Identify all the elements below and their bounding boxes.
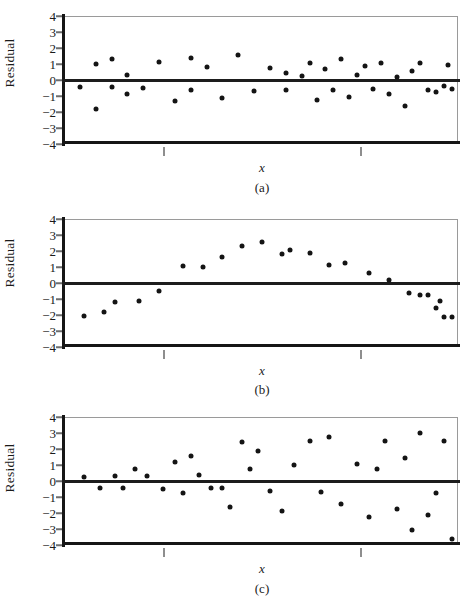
data-point <box>267 66 272 71</box>
x-tick-mark <box>163 548 165 557</box>
data-point <box>418 430 423 435</box>
data-point <box>220 95 225 100</box>
data-point <box>283 70 288 75</box>
data-point <box>418 60 423 65</box>
panel-c-y-axis-label: Residual <box>2 413 18 523</box>
panel-b-caption: (b) <box>232 382 292 398</box>
y-tick-label: −1 <box>42 90 56 103</box>
data-point <box>362 63 367 68</box>
frame-top-border <box>62 417 458 418</box>
y-tick-label: −4 <box>42 539 56 552</box>
data-point <box>291 462 296 467</box>
data-point <box>347 94 352 99</box>
data-point <box>327 262 332 267</box>
panel-b-y-axis-label: Residual <box>2 208 18 318</box>
data-point <box>188 88 193 93</box>
data-point <box>200 265 205 270</box>
data-point <box>386 278 391 283</box>
data-point <box>256 448 261 453</box>
data-point <box>81 474 86 479</box>
data-point <box>228 504 233 509</box>
data-point <box>172 98 177 103</box>
data-point <box>125 72 130 77</box>
panel-a-caption: (a) <box>232 180 292 196</box>
data-point <box>93 107 98 112</box>
y-tick-label: −3 <box>42 122 56 135</box>
x-tick-mark <box>360 548 362 557</box>
data-point <box>113 299 118 304</box>
data-point <box>160 487 165 492</box>
data-point <box>252 88 257 93</box>
data-point <box>446 62 451 67</box>
data-point <box>402 455 407 460</box>
frame-top-border <box>62 16 458 17</box>
panel-b: Residual 4 3 2 1 0 −1 −2 −3 −4 <box>0 200 466 400</box>
data-point <box>137 298 142 303</box>
data-point <box>307 439 312 444</box>
panel-b-plot-frame <box>62 219 458 347</box>
data-point <box>208 486 213 491</box>
data-point <box>157 288 162 293</box>
data-point <box>442 315 447 320</box>
panel-a-y-axis-label: Residual <box>2 8 18 118</box>
data-point <box>109 85 114 90</box>
data-point <box>259 239 264 244</box>
zero-reference-line <box>62 480 460 483</box>
data-point <box>450 536 455 541</box>
data-point <box>188 454 193 459</box>
panel-c-y-tick-labels: 4 3 2 1 0 −1 −2 −3 −4 <box>30 403 56 607</box>
data-point <box>434 89 439 94</box>
data-point <box>426 512 431 517</box>
data-point <box>410 69 415 74</box>
data-point <box>366 271 371 276</box>
data-point <box>141 86 146 91</box>
panel-b-x-axis-label: x <box>242 363 282 379</box>
panel-c-x-axis-label: x <box>242 561 282 577</box>
data-point <box>299 74 304 79</box>
data-point <box>386 91 391 96</box>
data-point <box>434 305 439 310</box>
data-point <box>374 467 379 472</box>
data-point <box>97 486 102 491</box>
x-tick-mark <box>360 147 362 156</box>
data-point <box>196 473 201 478</box>
data-point <box>101 310 106 315</box>
x-axis-spine <box>62 141 460 144</box>
data-point <box>339 56 344 61</box>
data-point <box>81 313 86 318</box>
data-point <box>450 315 455 320</box>
data-point <box>450 86 455 91</box>
data-point <box>442 83 447 88</box>
data-point <box>188 55 193 60</box>
zero-reference-line <box>62 282 460 285</box>
x-tick-mark <box>163 350 165 359</box>
data-point <box>442 439 447 444</box>
data-point <box>283 87 288 92</box>
data-point <box>240 244 245 249</box>
data-point <box>180 491 185 496</box>
x-tick-mark <box>360 350 362 359</box>
data-point <box>370 86 375 91</box>
data-point <box>121 485 126 490</box>
panel-a-x-axis-label: x <box>242 160 282 176</box>
frame-top-border <box>62 219 458 220</box>
data-point <box>355 461 360 466</box>
data-point <box>248 467 253 472</box>
data-point <box>378 61 383 66</box>
panel-a-plot-frame <box>62 16 458 144</box>
y-tick-label: −1 <box>42 491 56 504</box>
panel-c-caption: (c) <box>232 581 292 597</box>
data-point <box>125 92 130 97</box>
y-tick-label: −3 <box>42 523 56 536</box>
data-point <box>426 293 431 298</box>
panel-a-y-tick-labels: 4 3 2 1 0 −1 −2 −3 −4 <box>30 0 56 200</box>
panel-a: Residual 4 3 2 1 0 −1 −2 −3 −4 <box>0 0 466 200</box>
data-point <box>180 263 185 268</box>
data-point <box>410 527 415 532</box>
data-point <box>394 507 399 512</box>
data-point <box>438 299 443 304</box>
data-point <box>236 52 241 57</box>
y-tick-label: −2 <box>42 106 56 119</box>
panel-c: Residual 4 3 2 1 0 −1 −2 −3 −4 <box>0 403 466 607</box>
data-point <box>307 250 312 255</box>
